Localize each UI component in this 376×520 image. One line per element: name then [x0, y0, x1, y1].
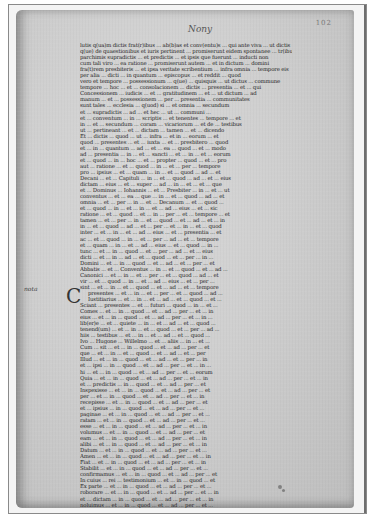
margin-note: nota: [24, 285, 37, 292]
folio-number: 102: [316, 19, 332, 27]
page-heading: Nony: [188, 24, 212, 34]
frame-edge-line: [364, 5, 366, 513]
ink-stain: [278, 485, 282, 489]
manuscript-page: Nony 102 nota C lutis q(ua)m dictis frat…: [16, 10, 354, 508]
manuscript-text-block: lutis q(ua)m dictis frat(r)ibus ... ab(b…: [80, 42, 292, 508]
ink-stain: [282, 489, 285, 492]
